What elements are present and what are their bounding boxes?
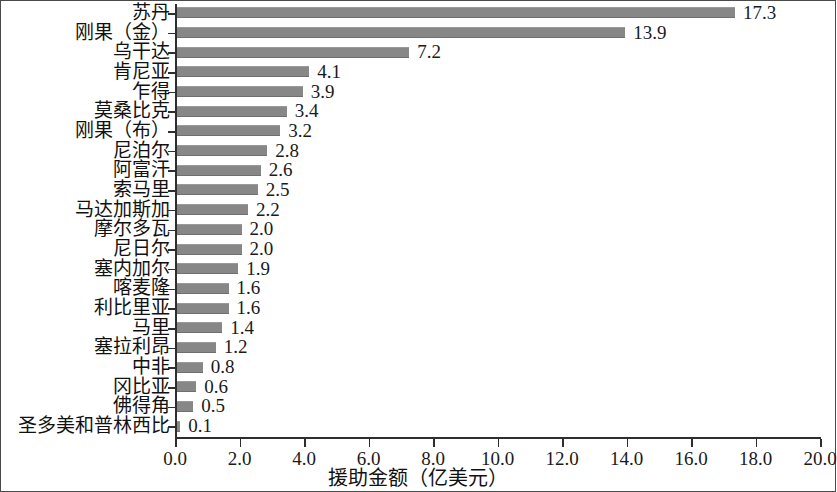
x-axis-tick: [756, 439, 758, 447]
bar: [177, 381, 196, 392]
y-axis-tick: [168, 308, 175, 310]
category-axis-labels: 苏丹刚果（金）乌干达肯尼亚乍得莫桑比克刚果（布）尼泊尔阿富汗索马里马达加斯加摩尔…: [0, 4, 173, 437]
x-axis-tick: [175, 439, 177, 447]
bar-row: 0.6: [175, 378, 820, 398]
y-axis-tick: [168, 190, 175, 192]
category-label: 喀麦隆: [113, 278, 170, 298]
y-axis-tick: [168, 367, 175, 369]
bar: [177, 106, 287, 117]
bar-row: 13.9: [175, 24, 820, 44]
bar: [177, 145, 267, 156]
y-axis-tick: [168, 92, 175, 94]
bar: [177, 283, 229, 294]
bar-value-label: 3.9: [311, 82, 335, 102]
category-label: 中非: [132, 357, 170, 377]
x-axis-title: 援助金额（亿美元）: [0, 466, 836, 490]
x-axis-ticks: 0.02.04.06.08.010.012.014.016.018.020.0: [175, 439, 821, 449]
bar: [177, 86, 303, 97]
bar-value-label: 2.8: [275, 141, 299, 161]
y-axis-tick: [168, 328, 175, 330]
bar-row: 7.2: [175, 43, 820, 63]
y-axis-tick: [168, 13, 175, 15]
bar-value-label: 3.2: [288, 121, 312, 141]
bar-row: 3.4: [175, 102, 820, 122]
bar-value-label: 0.8: [211, 357, 235, 377]
category-label: 马达加斯加: [75, 200, 170, 220]
bar-value-label: 0.1: [188, 416, 212, 436]
bar: [177, 47, 409, 58]
bar-value-label: 3.4: [295, 101, 319, 121]
bar: [177, 322, 222, 333]
bar-row: 0.1: [175, 417, 820, 437]
bar-row: 2.5: [175, 181, 820, 201]
bar-value-label: 2.2: [256, 200, 280, 220]
bar: [177, 184, 258, 195]
bar: [177, 125, 280, 136]
y-axis-tick: [168, 407, 175, 409]
x-axis-tick: [820, 439, 822, 447]
y-axis-tick: [168, 348, 175, 350]
bar-value-label: 7.2: [417, 42, 441, 62]
bar-value-label: 2.5: [266, 180, 290, 200]
category-label: 摩尔多瓦: [94, 219, 170, 239]
y-axis-tick: [168, 249, 175, 251]
category-label: 马里: [132, 318, 170, 338]
bar-row: 3.2: [175, 122, 820, 142]
y-axis-tick: [168, 289, 175, 291]
frame-border-right: [835, 0, 836, 492]
bar-value-label: 2.0: [250, 239, 274, 259]
x-axis-tick: [369, 439, 371, 447]
bar-row: 17.3: [175, 4, 820, 24]
bar-value-label: 0.5: [201, 396, 225, 416]
category-label: 塞拉利昂: [94, 337, 170, 357]
bar-value-label: 1.6: [237, 278, 261, 298]
bar: [177, 421, 180, 432]
y-axis-tick: [168, 151, 175, 153]
bar: [177, 263, 238, 274]
bar: [177, 342, 216, 353]
x-axis-tick: [433, 439, 435, 447]
category-label: 刚果（布）: [75, 121, 170, 141]
bar-value-label: 1.4: [230, 318, 254, 338]
x-axis-tick: [627, 439, 629, 447]
bar-row: 4.1: [175, 63, 820, 83]
bar-value-label: 2.6: [269, 160, 293, 180]
x-axis-tick: [562, 439, 564, 447]
bar-row: 1.6: [175, 299, 820, 319]
category-label: 塞内加尔: [94, 259, 170, 279]
y-axis-tick: [168, 230, 175, 232]
bar: [177, 27, 625, 38]
category-label: 肯尼亚: [113, 62, 170, 82]
category-label: 尼日尔: [113, 239, 170, 259]
x-axis-tick: [498, 439, 500, 447]
y-axis-tick: [168, 33, 175, 35]
y-axis-tick: [168, 426, 175, 428]
category-label: 索马里: [113, 180, 170, 200]
bar-value-label: 1.9: [246, 259, 270, 279]
bar: [177, 244, 242, 255]
bar-row: 1.2: [175, 339, 820, 359]
category-label: 莫桑比克: [94, 101, 170, 121]
x-axis-tick: [240, 439, 242, 447]
category-label: 阿富汗: [113, 160, 170, 180]
x-axis-tick: [304, 439, 306, 447]
x-axis-tick: [691, 439, 693, 447]
category-label: 佛得角: [113, 396, 170, 416]
bar: [177, 401, 193, 412]
category-label: 刚果（金）: [75, 23, 170, 43]
category-label: 苏丹: [132, 3, 170, 23]
y-axis-tick: [168, 72, 175, 74]
bar-value-label: 0.6: [204, 377, 228, 397]
y-axis-tick: [168, 170, 175, 172]
bar-row: 0.5: [175, 398, 820, 418]
y-axis-tick: [168, 210, 175, 212]
bar: [177, 66, 309, 77]
bar-row: 2.0: [175, 240, 820, 260]
bar-row: 1.9: [175, 260, 820, 280]
bar-row: 1.4: [175, 319, 820, 339]
y-axis-tick: [168, 52, 175, 54]
bar-row: 1.6: [175, 280, 820, 300]
category-label: 乍得: [132, 82, 170, 102]
y-axis-tick: [168, 387, 175, 389]
y-axis-tick: [168, 131, 175, 133]
